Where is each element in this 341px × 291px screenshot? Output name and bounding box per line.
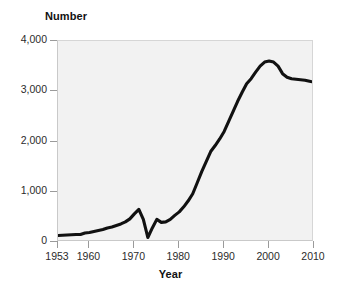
y-tick-label: 2,000 [21,135,47,146]
y-axis-title: Number [45,10,87,22]
y-tick-label: 3,000 [21,84,47,95]
x-tick-label: 1990 [203,251,243,262]
line-chart-svg [58,41,313,241]
x-tick-mark [313,241,314,248]
series-line-number [58,61,313,237]
y-tick-mark [50,40,57,41]
plot-area [57,40,313,241]
x-tick-mark [133,241,134,248]
x-tick-mark [57,241,58,248]
x-tick-mark [268,241,269,248]
x-tick-mark [88,241,89,248]
y-tick-label: 1,000 [21,185,47,196]
y-tick-mark [50,90,57,91]
y-tick-mark [50,141,57,142]
y-tick-label: 4,000 [21,34,47,45]
x-axis-title: Year [0,268,341,280]
x-tick-label: 1960 [68,251,108,262]
y-tick-mark [50,241,57,242]
x-tick-label: 2010 [293,251,333,262]
x-tick-label: 2000 [248,251,288,262]
x-tick-mark [223,241,224,248]
x-tick-label: 1970 [113,251,153,262]
y-tick-mark [50,191,57,192]
y-tick-label: 0 [41,235,47,246]
x-tick-label: 1980 [158,251,198,262]
x-tick-mark [178,241,179,248]
chart-container: Number 01,0002,0003,0004,000 19531960197… [0,0,341,291]
